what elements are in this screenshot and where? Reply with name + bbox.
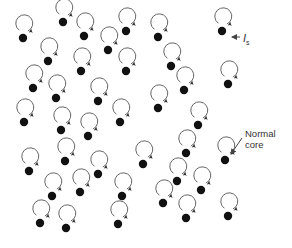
normal-core: [167, 62, 175, 70]
supercurrent-ring: [179, 195, 196, 211]
supercurrent-ring: [194, 167, 211, 183]
supercurrent-ring: [26, 65, 43, 81]
normal-core: [173, 177, 181, 185]
normal-core: [114, 220, 122, 228]
vortex-diagram: Is Normalcore: [0, 0, 292, 248]
vortex: [77, 13, 94, 40]
normal-core: [180, 86, 188, 94]
normal-core: [48, 192, 56, 200]
vortex: [119, 8, 136, 35]
supercurrent-ring: [136, 141, 153, 157]
supercurrent-ring: [119, 8, 136, 24]
vortex: [115, 173, 132, 200]
normal-core: [224, 212, 232, 220]
supercurrent-ring: [17, 99, 34, 115]
vortex: [45, 173, 62, 200]
normal-core: [25, 167, 33, 175]
supercurrent-ring: [91, 78, 108, 94]
vortex: [81, 113, 98, 140]
vortex: [151, 14, 168, 41]
supercurrent-ring: [115, 173, 132, 189]
vortex: [58, 138, 75, 165]
vortex: [91, 151, 108, 178]
normal-core: [116, 118, 124, 126]
vortex: [156, 180, 173, 207]
vortex: [218, 137, 235, 164]
normal-core: [94, 170, 102, 178]
vortex: [73, 169, 90, 196]
vortex: [59, 205, 76, 232]
supercurrent-ring: [151, 85, 168, 101]
supercurrent-ring: [56, 0, 73, 15]
normal-core: [182, 149, 190, 157]
vortex: [215, 8, 232, 35]
normal-core: [182, 214, 190, 222]
supercurrent-ring: [179, 130, 196, 146]
supercurrent-ring: [73, 169, 90, 185]
normal-core: [76, 188, 84, 196]
vortex: [177, 67, 194, 94]
vortex: [111, 201, 128, 228]
normal-core: [61, 157, 69, 165]
normal-core: [57, 126, 65, 134]
vortex: [136, 141, 153, 168]
vortex: [151, 85, 168, 112]
vortex: [49, 75, 66, 102]
normal-core: [80, 32, 88, 40]
supercurrent-ring: [33, 200, 50, 216]
vortex: [179, 130, 196, 157]
supercurrent-ring: [41, 38, 58, 54]
supercurrent-ring: [111, 201, 128, 217]
normal-core: [118, 192, 126, 200]
normal-core: [139, 160, 147, 168]
vortex: [33, 200, 50, 227]
normal-core: [122, 67, 130, 75]
vortex: [164, 43, 181, 70]
supercurrent-ring: [221, 193, 238, 209]
normal-core: [94, 97, 102, 105]
normal-core: [19, 34, 27, 42]
vortex: [191, 102, 208, 129]
supercurrent-ring: [91, 151, 108, 167]
supercurrent-ring: [58, 138, 75, 154]
vortex: [26, 65, 43, 92]
supercurrent-ring: [113, 99, 130, 115]
vortex: [221, 61, 238, 88]
normal-core: [77, 67, 85, 75]
supercurrent-label: Is: [243, 33, 250, 48]
vortex: [91, 78, 108, 105]
normal-core: [159, 199, 167, 207]
supercurrent-ring: [81, 113, 98, 129]
supercurrent-ring: [151, 14, 168, 30]
supercurrent-ring: [16, 15, 33, 31]
normal-core: [194, 121, 202, 129]
vortex: [41, 38, 58, 65]
supercurrent-ring: [54, 107, 71, 123]
supercurrent-ring: [59, 205, 76, 221]
normal-core: [154, 33, 162, 41]
supercurrent-ring: [170, 158, 187, 174]
supercurrent-ring: [49, 75, 66, 91]
normal-core: [84, 132, 92, 140]
supercurrent-ring: [156, 180, 173, 196]
vortex: [16, 15, 33, 42]
supercurrent-ring: [22, 148, 39, 164]
normal-core: [218, 27, 226, 35]
normal-core: [29, 84, 37, 92]
vortex: [113, 99, 130, 126]
normal-core: [122, 27, 130, 35]
supercurrent-ring: [119, 48, 136, 64]
normal-core: [52, 94, 60, 102]
supercurrent-ring: [101, 27, 118, 43]
supercurrent-ring: [191, 102, 208, 118]
supercurrent-ring: [164, 43, 181, 59]
vortex: [170, 158, 187, 185]
supercurrent-ring: [45, 173, 62, 189]
normal-core: [20, 118, 28, 126]
vortex: [194, 167, 211, 194]
normal-core: [197, 186, 205, 194]
vortex: [54, 107, 71, 134]
vortex: [179, 195, 196, 222]
supercurrent-ring: [218, 137, 235, 153]
supercurrent-ring: [77, 13, 94, 29]
